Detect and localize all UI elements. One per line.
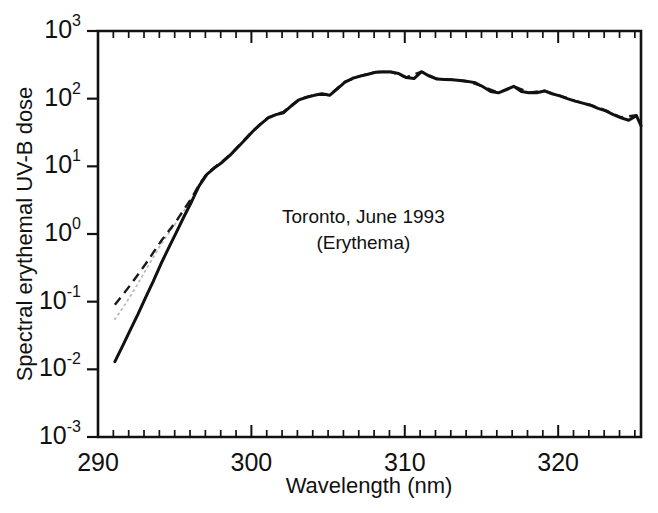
y-tick-label: 100: [44, 215, 81, 245]
y-tick-label: 10-3: [39, 418, 81, 448]
y-tick-label: 101: [44, 148, 81, 178]
y-tick-label: 102: [44, 80, 81, 110]
series-model-dashed: [115, 72, 641, 305]
annotation-location-date: Toronto, June 1993: [282, 206, 445, 227]
x-tick-label: 290: [77, 448, 119, 476]
y-tick-label: 103: [44, 12, 81, 42]
annotation-action-spectrum: (Erythema): [316, 232, 410, 253]
x-tick-label: 320: [537, 448, 579, 476]
y-axis-major-ticks: [87, 31, 98, 437]
x-tick-label: 310: [384, 448, 426, 476]
y-axis-tick-labels: 10-310-210-1100101102103: [39, 12, 81, 448]
y-axis-title: Spectral erythemal UV-B dose: [12, 87, 37, 382]
x-tick-label: 300: [231, 448, 273, 476]
spectral-uvb-line-chart: 290300310320 10-310-210-1100101102103 To…: [0, 0, 658, 513]
x-axis-tick-labels: 290300310320: [77, 448, 579, 476]
x-axis-title: Wavelength (nm): [286, 473, 453, 498]
y-tick-label: 10-1: [39, 283, 81, 313]
chart-figure: 290300310320 10-310-210-1100101102103 To…: [0, 0, 658, 513]
y-tick-label: 10-2: [39, 351, 81, 381]
plot-annotations: Toronto, June 1993(Erythema): [282, 206, 445, 253]
